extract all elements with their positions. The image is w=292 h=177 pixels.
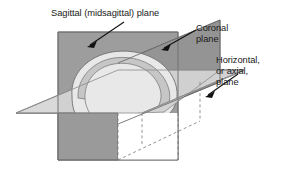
- label-horizontal-plane: Horizontal, or axial, plane: [216, 55, 260, 89]
- label-coronal-line1: Coronal: [196, 23, 228, 34]
- label-sagittal-plane: Sagittal (midsagittal) plane: [51, 8, 159, 19]
- label-horizontal-line1: Horizontal,: [216, 55, 260, 66]
- label-coronal-plane: Coronal plane: [196, 23, 228, 45]
- arrowhead-horizontal: [205, 91, 215, 98]
- label-sagittal-line1: Sagittal (midsagittal) plane: [51, 8, 159, 19]
- label-horizontal-line2: or axial,: [216, 66, 260, 77]
- label-coronal-line2: plane: [196, 34, 228, 45]
- label-horizontal-line3: plane: [216, 77, 260, 88]
- sagittal-plane-lower: [58, 113, 118, 160]
- anatomical-planes-figure: Sagittal (midsagittal) plane Coronal pla…: [0, 0, 292, 177]
